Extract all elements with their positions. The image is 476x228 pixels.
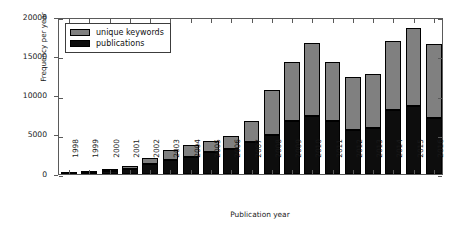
x-axis-tick-label: 2005 bbox=[213, 139, 222, 179]
legend-swatch-unique-keywords bbox=[70, 29, 90, 36]
x-axis-tick-mark bbox=[272, 170, 273, 174]
x-axis-top-tick-mark bbox=[353, 19, 354, 23]
x-axis-tick-mark bbox=[353, 170, 354, 174]
bar-segment-unique-keywords bbox=[264, 90, 280, 135]
x-axis-tick-label: 1999 bbox=[91, 139, 100, 179]
x-axis-tick-mark bbox=[191, 170, 192, 174]
x-axis-top-tick-mark bbox=[252, 19, 253, 23]
x-axis-top-tick-mark bbox=[434, 19, 435, 23]
x-axis-top-tick-mark bbox=[292, 19, 293, 23]
y-axis-tick-label: 5000 bbox=[28, 130, 47, 139]
x-axis-title-text: Publication year bbox=[230, 210, 289, 219]
y-axis-tick-label: 0 bbox=[42, 170, 47, 179]
x-axis-tick-label: 2001 bbox=[132, 139, 141, 179]
x-axis-tick-mark bbox=[211, 170, 212, 174]
x-axis-top-tick-mark bbox=[373, 19, 374, 23]
y-axis-right-tick bbox=[438, 58, 442, 59]
x-axis-tick-label: 2007 bbox=[254, 139, 263, 179]
x-axis-tick-label: 2012 bbox=[355, 139, 364, 179]
x-axis-top-tick-mark bbox=[393, 19, 394, 23]
x-axis-top-tick-mark bbox=[272, 19, 273, 23]
bar-segment-unique-keywords bbox=[365, 74, 381, 127]
bar-segment-unique-keywords bbox=[304, 43, 320, 116]
x-axis-tick-label: 2000 bbox=[112, 139, 121, 179]
x-axis-top-tick-mark bbox=[312, 19, 313, 23]
x-axis-tick-mark bbox=[434, 170, 435, 174]
bar-segment-unique-keywords bbox=[345, 77, 361, 130]
bar-segment-unique-keywords bbox=[426, 44, 442, 118]
legend-label-unique-keywords: unique keywords bbox=[96, 28, 164, 37]
x-axis-tick-label: 2013 bbox=[375, 139, 384, 179]
x-axis-tick-mark bbox=[414, 170, 415, 174]
x-axis-tick-label: 2015 bbox=[416, 139, 425, 179]
x-axis-top-tick-mark bbox=[211, 19, 212, 23]
x-axis-tick-label: 2016 bbox=[436, 139, 445, 179]
y-axis-inner-tick bbox=[59, 58, 63, 59]
bar-segment-unique-keywords bbox=[385, 41, 401, 111]
x-axis-tick-label: 2003 bbox=[172, 139, 181, 179]
legend-swatch-publications bbox=[70, 40, 90, 47]
x-axis-tick-mark bbox=[292, 170, 293, 174]
bar-segment-unique-keywords bbox=[325, 62, 341, 121]
x-axis-tick-label: 2010 bbox=[314, 139, 323, 179]
x-axis-tick-mark bbox=[69, 170, 70, 174]
x-axis-top-tick-mark bbox=[231, 19, 232, 23]
bar-segment-unique-keywords bbox=[284, 62, 300, 122]
y-axis-right-tick bbox=[438, 137, 442, 138]
y-axis-inner-tick bbox=[59, 137, 63, 138]
y-axis-right-tick bbox=[438, 19, 442, 20]
y-axis-right-tick bbox=[438, 98, 442, 99]
x-axis-tick-mark bbox=[252, 170, 253, 174]
chart-figure: Frequency per year 05000100001500020000 … bbox=[0, 0, 476, 228]
x-axis-tick-mark bbox=[130, 170, 131, 174]
x-axis-tick-label: 2011 bbox=[335, 139, 344, 179]
bar-segment-unique-keywords bbox=[406, 28, 422, 106]
y-axis-tick-label: 15000 bbox=[23, 52, 47, 61]
chart-legend: unique keywords publications bbox=[65, 23, 171, 53]
x-axis-tick-mark bbox=[333, 170, 334, 174]
x-axis-tick-label: 2008 bbox=[274, 139, 283, 179]
y-axis-tick-label: 20000 bbox=[23, 13, 47, 22]
x-axis-tick-label: 2009 bbox=[294, 139, 303, 179]
x-axis-tick-label: 2014 bbox=[395, 139, 404, 179]
x-axis-tick-label: 1998 bbox=[71, 139, 80, 179]
x-axis-top-tick-mark bbox=[414, 19, 415, 23]
x-axis-tick-mark bbox=[373, 170, 374, 174]
y-axis-inner-tick bbox=[59, 176, 63, 177]
legend-item-unique-keywords: unique keywords bbox=[70, 27, 164, 38]
y-axis-inner-tick bbox=[59, 98, 63, 99]
y-axis-inner-tick bbox=[59, 19, 63, 20]
y-axis-tick-label: 10000 bbox=[23, 91, 47, 100]
x-axis-top-tick-mark bbox=[333, 19, 334, 23]
x-axis-tick-label: 2006 bbox=[233, 139, 242, 179]
legend-item-publications: publications bbox=[70, 38, 164, 49]
x-axis-tick-mark bbox=[110, 170, 111, 174]
x-axis-tick-label: 2002 bbox=[152, 139, 161, 179]
x-axis-tick-label: 2004 bbox=[193, 139, 202, 179]
legend-label-publications: publications bbox=[96, 39, 144, 48]
x-axis-top-tick-mark bbox=[191, 19, 192, 23]
x-axis-title: Publication year bbox=[0, 210, 476, 219]
